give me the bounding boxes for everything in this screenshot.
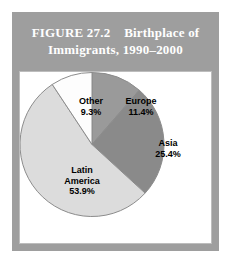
pie-label-europe: Europe 11.4% — [116, 96, 166, 117]
pie-label-europe-name: Europe — [116, 96, 166, 107]
pie-label-other: Other 9.3% — [69, 96, 113, 117]
pie-label-latin-america-name-1: Latin — [54, 165, 110, 176]
figure-title-line-2: Immigrants, 1990–2000 — [48, 41, 183, 58]
pie-label-asia-name: Asia — [144, 138, 192, 149]
pie-label-latin-america: Latin America 53.9% — [54, 165, 110, 197]
pie-label-latin-america-value: 53.9% — [54, 186, 110, 197]
figure-title: FIGURE 27.2 Birthplace of Immigrants, 19… — [12, 12, 219, 70]
pie-label-latin-america-name-2: America — [54, 176, 110, 187]
figure-title-line-1: FIGURE 27.2 Birthplace of — [32, 24, 200, 41]
pie-label-other-value: 9.3% — [69, 107, 113, 118]
pie-label-other-name: Other — [69, 96, 113, 107]
pie-chart: Other 9.3% Europe 11.4% Asia 25.4% Latin… — [20, 72, 213, 245]
plot-panel: Other 9.3% Europe 11.4% Asia 25.4% Latin… — [19, 71, 212, 244]
pie-label-europe-value: 11.4% — [116, 107, 166, 118]
pie-label-asia-value: 25.4% — [144, 149, 192, 160]
figure-card: FIGURE 27.2 Birthplace of Immigrants, 19… — [12, 12, 219, 251]
pie-label-asia: Asia 25.4% — [144, 138, 192, 159]
